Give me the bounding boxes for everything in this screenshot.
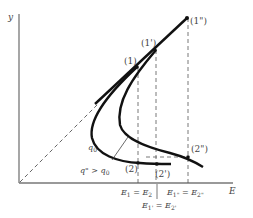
label-point-2: (2) — [125, 164, 138, 174]
label-point-1prime: (1') — [141, 38, 156, 48]
label-point-2prime: (2') — [155, 169, 170, 179]
label-e1pp-equals-e2pp: E1" = E2" — [166, 188, 204, 198]
point-1prime — [153, 48, 157, 52]
label-point-1doubleprime: (1") — [190, 16, 207, 26]
label-q-double-prime: q" > q0 — [80, 166, 110, 176]
operating-line-diagram: y E (1) (1') (1") (2) (2') (2") q0 q" > … — [0, 0, 253, 218]
operating-line — [95, 18, 187, 104]
y-axis-label: y — [7, 12, 14, 22]
annotation-leader — [112, 137, 128, 160]
point-2prime — [155, 162, 159, 166]
point-1doubleprime — [185, 16, 189, 20]
point-2doubleprime — [186, 155, 190, 159]
label-e1p-equals-e2p: E1' = E2' — [141, 201, 177, 211]
label-point-1: (1) — [124, 56, 137, 66]
label-e1-equals-e2: E1 = E2 — [120, 188, 152, 198]
label-point-2doubleprime: (2") — [191, 144, 208, 154]
x-axis-label: E — [228, 186, 236, 196]
